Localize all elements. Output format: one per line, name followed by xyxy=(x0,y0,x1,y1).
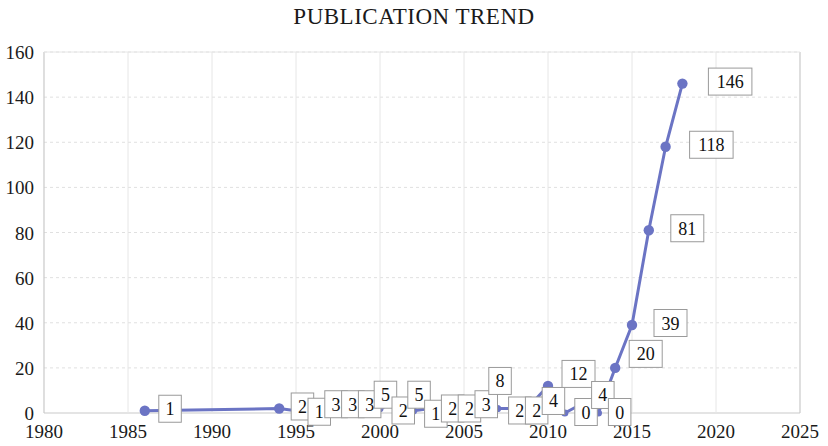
data-label-2016: 81 xyxy=(671,215,704,242)
svg-text:39: 39 xyxy=(662,314,680,334)
svg-text:2: 2 xyxy=(298,397,307,417)
publication-trend-chart: PUBLICATION TREND 020406080100120140160 … xyxy=(0,0,828,446)
x-tick-1990: 1990 xyxy=(193,421,231,442)
x-tick-1980: 1980 xyxy=(25,421,63,442)
data-label-2009: 4 xyxy=(542,387,565,414)
svg-text:12: 12 xyxy=(570,364,588,384)
svg-text:4: 4 xyxy=(549,391,558,411)
x-axis-tick-labels: 1980198519901995200020052010201520202025 xyxy=(25,421,819,442)
svg-text:3: 3 xyxy=(348,395,357,415)
svg-text:0: 0 xyxy=(615,403,624,423)
data-label-2010: 12 xyxy=(562,360,595,387)
svg-text:1: 1 xyxy=(315,402,324,422)
y-tick-160: 160 xyxy=(6,42,35,63)
marker-2018 xyxy=(677,78,687,88)
y-tick-60: 60 xyxy=(15,268,34,289)
y-axis-tick-labels: 020406080100120140160 xyxy=(6,42,35,424)
data-point-labels: 1213335251223822412040203981118146 xyxy=(159,68,752,427)
marker-2017 xyxy=(660,142,670,152)
data-label-1986: 1 xyxy=(159,395,182,422)
y-tick-100: 100 xyxy=(6,177,35,198)
svg-text:5: 5 xyxy=(415,385,424,405)
marker-2016 xyxy=(644,225,654,235)
data-series-line xyxy=(145,84,683,413)
y-tick-20: 20 xyxy=(15,358,34,379)
svg-text:81: 81 xyxy=(678,219,696,239)
svg-text:2: 2 xyxy=(532,401,541,421)
svg-text:3: 3 xyxy=(482,395,491,415)
svg-text:2: 2 xyxy=(448,399,457,419)
data-label-2018: 146 xyxy=(708,68,752,95)
marker-1994 xyxy=(274,403,284,413)
x-tick-2020: 2020 xyxy=(697,421,735,442)
y-tick-140: 140 xyxy=(6,87,35,108)
svg-text:1: 1 xyxy=(166,399,175,419)
svg-text:3: 3 xyxy=(365,395,374,415)
svg-text:4: 4 xyxy=(598,385,607,405)
y-tick-120: 120 xyxy=(6,132,35,153)
data-label-2006: 8 xyxy=(489,367,512,394)
data-label-2014: 20 xyxy=(629,340,662,367)
data-point-markers xyxy=(140,78,688,416)
svg-text:0: 0 xyxy=(582,403,591,423)
x-tick-2005: 2005 xyxy=(445,421,483,442)
series-publications-line xyxy=(145,84,683,413)
svg-text:5: 5 xyxy=(381,385,390,405)
y-tick-80: 80 xyxy=(15,223,34,244)
svg-text:3: 3 xyxy=(332,395,341,415)
marker-2014 xyxy=(610,363,620,373)
data-label-2017: 118 xyxy=(690,131,734,158)
x-tick-1985: 1985 xyxy=(109,421,147,442)
data-label-2013: 0 xyxy=(608,399,631,426)
svg-text:20: 20 xyxy=(637,344,655,364)
svg-text:146: 146 xyxy=(717,72,744,92)
marker-2015 xyxy=(627,320,637,330)
y-tick-40: 40 xyxy=(15,313,34,334)
x-tick-2025: 2025 xyxy=(781,421,819,442)
svg-text:118: 118 xyxy=(698,135,724,155)
svg-text:2: 2 xyxy=(399,401,408,421)
marker-1986 xyxy=(140,406,150,416)
svg-text:2: 2 xyxy=(515,401,524,421)
svg-text:1: 1 xyxy=(431,404,440,424)
svg-text:8: 8 xyxy=(496,371,505,391)
chart-plot-area: 020406080100120140160 198019851990199520… xyxy=(0,0,828,446)
svg-text:2: 2 xyxy=(465,399,474,419)
data-label-2015: 39 xyxy=(654,310,687,337)
